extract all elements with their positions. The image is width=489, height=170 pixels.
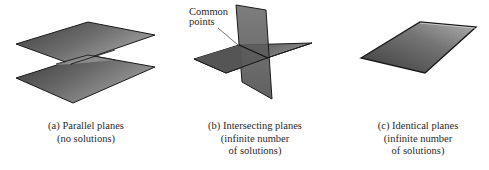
caption-parallel-planes: (a) Parallel planes (no solutions)	[48, 120, 124, 145]
caption-line: (infinite number	[378, 133, 458, 146]
horizontal-plane-front	[194, 45, 243, 73]
identical-planes-illustration	[361, 22, 476, 73]
caption-line: of solutions)	[208, 145, 302, 158]
callout-leader-line	[218, 28, 238, 45]
identical-plane	[361, 22, 476, 73]
caption-intersecting-planes: (b) Intersecting planes (infinite number…	[208, 120, 302, 158]
caption-line: (no solutions)	[48, 133, 124, 146]
common-points-callout: Common points	[189, 7, 228, 27]
caption-line: of solutions)	[378, 145, 458, 158]
parallel-planes-illustration	[16, 22, 155, 103]
caption-identical-planes: (c) Identical planes (infinite number of…	[378, 120, 458, 158]
caption-line: (infinite number	[208, 133, 302, 146]
caption-line: (a) Parallel planes	[48, 120, 124, 133]
callout-line-2: points	[189, 17, 228, 27]
caption-line: (c) Identical planes	[378, 120, 458, 133]
caption-line: (b) Intersecting planes	[208, 120, 302, 133]
planes-diagram: Common points (a) Parallel planes (no so…	[0, 0, 489, 170]
